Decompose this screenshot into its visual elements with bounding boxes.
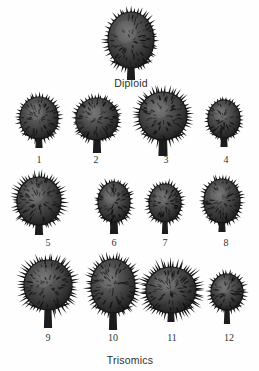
capsule-highlight (216, 279, 230, 293)
specimen-number-label: 12 (189, 333, 259, 343)
group-label-cap-trisomics: Trisomics (90, 355, 170, 366)
specimen-number-label: 2 (56, 155, 136, 165)
capsule-stalk (44, 308, 52, 328)
capsule-highlight (26, 103, 43, 120)
capsule-t4 (198, 90, 250, 157)
capsule-highlight (154, 274, 177, 292)
group-label-cap-diploid: Diploid (91, 78, 171, 89)
specimen-number-label: 4 (186, 155, 259, 165)
capsule-drawing (9, 86, 69, 159)
capsule-t12 (200, 263, 254, 335)
capsule-t5 (4, 164, 74, 248)
capsule-drawing (10, 246, 86, 342)
capsule-highlight (32, 268, 54, 288)
figure-plate: Diploid123456789101112Trisomics (0, 0, 259, 371)
capsule-drawing (4, 164, 74, 248)
capsule-drawing (198, 90, 250, 157)
capsule-t1 (9, 86, 69, 159)
capsule-highlight (116, 20, 137, 42)
capsule-drawing (65, 87, 129, 164)
specimen-number-label: 8 (186, 238, 259, 248)
capsule-t11 (131, 252, 211, 337)
capsule-t8 (193, 168, 251, 243)
capsule-highlight (83, 104, 102, 121)
capsule-t2 (65, 87, 129, 164)
capsule-highlight (24, 184, 44, 203)
capsule-drawing (131, 252, 211, 337)
capsule-drawing (138, 173, 192, 245)
capsule-drawing (193, 168, 251, 243)
capsule-highlight (213, 106, 227, 121)
capsule-highlight (154, 190, 168, 205)
capsule-t6 (87, 171, 141, 245)
capsule-highlight (103, 188, 117, 204)
capsule-drawing (87, 171, 141, 245)
capsule-highlight (147, 99, 169, 118)
capsule-stalk (109, 311, 117, 330)
capsule-t7 (138, 173, 192, 245)
capsule-highlight (210, 186, 226, 204)
capsule-t9 (10, 246, 86, 342)
capsule-drawing (200, 263, 254, 335)
capsule-highlight (98, 267, 118, 289)
